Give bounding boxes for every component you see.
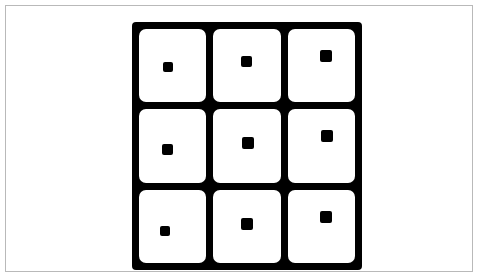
page-border-frame	[5, 5, 473, 272]
square-marker-icon	[320, 211, 332, 223]
square-marker-icon	[241, 56, 252, 67]
square-marker-icon	[162, 144, 173, 155]
figure-page	[0, 0, 479, 278]
grid-cell-r1-c1	[139, 29, 206, 102]
square-marker-icon	[241, 218, 253, 230]
grid-cell-r2-c3	[288, 109, 355, 182]
square-marker-icon	[242, 137, 254, 149]
three-by-three-grid	[132, 22, 362, 270]
grid-cell-r3-c3	[288, 190, 355, 263]
square-marker-icon	[321, 130, 333, 142]
square-marker-icon	[160, 226, 170, 236]
grid-cell-r1-c2	[213, 29, 280, 102]
grid-cell-r2-c2	[213, 109, 280, 182]
square-marker-icon	[163, 62, 173, 72]
grid-cell-r1-c3	[288, 29, 355, 102]
grid-cell-r2-c1	[139, 109, 206, 182]
grid-cell-r3-c2	[213, 190, 280, 263]
square-marker-icon	[320, 50, 332, 62]
grid-cell-r3-c1	[139, 190, 206, 263]
